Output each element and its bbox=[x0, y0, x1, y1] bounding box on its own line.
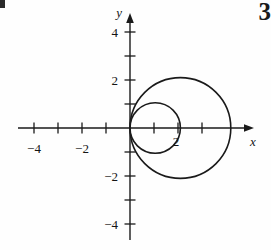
x-tick-label-minus2: −2 bbox=[75, 141, 89, 156]
page-number: 3 bbox=[259, 0, 271, 26]
x-tick-label-2: 2 bbox=[173, 134, 180, 149]
y-tick-label-2: 2 bbox=[112, 73, 119, 88]
y-tick-label-4: 4 bbox=[112, 25, 119, 40]
x-tick-label-minus4: −4 bbox=[27, 141, 41, 156]
y-tick-label-minus4: −4 bbox=[104, 217, 118, 232]
figure-container: −4 −2 2 4 2 −2 −4 y x 3 bbox=[0, 0, 271, 250]
x-axis-label: x bbox=[249, 134, 256, 149]
polar-circles-plot: −4 −2 2 4 2 −2 −4 y x bbox=[0, 0, 271, 250]
y-axis-arrowhead bbox=[126, 13, 134, 23]
y-axis-label: y bbox=[114, 5, 122, 20]
x-axis-arrowhead bbox=[244, 124, 254, 132]
y-tick-label-minus2: −2 bbox=[104, 169, 118, 184]
